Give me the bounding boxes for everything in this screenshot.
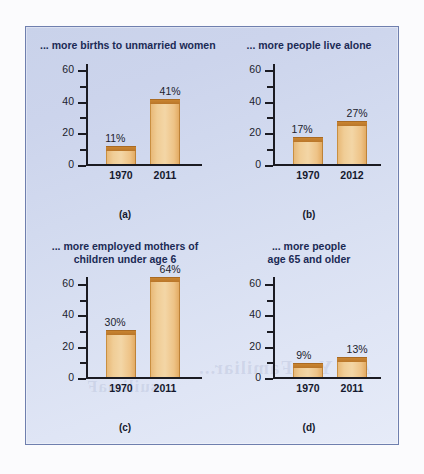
chart-title-a-line1: ... more births to unmarried women — [40, 39, 216, 52]
y-tick-c-0: 0 — [78, 378, 86, 380]
y-tick-b-60: 60 — [265, 70, 273, 72]
x-category-label-d-1: 2011 — [341, 382, 364, 394]
bar-group-c: 30%197064%2011 — [88, 277, 202, 377]
y-tick-label-d-60: 60 — [249, 277, 261, 289]
chart-title-d: ... more people age 65 and older — [221, 240, 397, 265]
bar-a-1970: 11%1970 — [106, 146, 136, 163]
y-tick-c-60: 60 — [78, 284, 86, 286]
y-tick-label-b-20: 20 — [249, 126, 261, 138]
bar-front-face-d-0 — [293, 368, 323, 377]
y-tick-minor-c-30 — [80, 331, 86, 333]
bar-d-1970: 9%1970 — [293, 363, 323, 377]
bar-top-face-a-1 — [150, 99, 180, 104]
y-tick-d-40: 40 — [265, 315, 273, 317]
plot-area-d: 0204060 9%197013%2011 — [235, 265, 387, 405]
x-category-label-a-0: 1970 — [109, 169, 132, 181]
y-tick-label-c-40: 40 — [62, 308, 74, 320]
y-tick-minor-d-10 — [267, 362, 273, 364]
bar-c-1970: 30%1970 — [106, 330, 136, 377]
bar-value-label-c-0: 30% — [105, 316, 126, 328]
x-axis-b — [273, 164, 381, 166]
y-tick-label-c-60: 60 — [62, 277, 74, 289]
chart-title-b-line1: ... more people live alone — [223, 39, 395, 52]
bar-d-2011: 13%2011 — [337, 357, 367, 377]
panel-letter-c: (c) — [32, 422, 218, 433]
bar-front-face-b-0 — [293, 142, 323, 164]
x-category-label-d-0: 1970 — [296, 382, 319, 394]
y-tick-label-a-0: 0 — [68, 158, 74, 170]
chart-panel-c: ... more employed mothers of children un… — [32, 240, 218, 443]
bar-front-face-a-1 — [150, 104, 180, 163]
y-tick-b-0: 0 — [265, 165, 273, 167]
chart-title-d-line1: ... more people — [223, 240, 395, 253]
bar-group-b: 17%197027%2012 — [275, 64, 381, 164]
y-tick-minor-a-50 — [80, 86, 86, 88]
y-tick-minor-c-10 — [80, 362, 86, 364]
y-tick-b-20: 20 — [265, 133, 273, 135]
chart-title-c-line2: children under age 6 — [34, 253, 216, 266]
bar-front-face-a-0 — [106, 151, 136, 163]
x-category-label-b-1: 2012 — [340, 169, 363, 181]
bar-value-label-b-0: 17% — [292, 123, 313, 135]
bar-group-a: 11%197041%2011 — [88, 64, 202, 164]
bar-front-face-c-1 — [150, 282, 180, 377]
y-tick-label-d-40: 40 — [249, 308, 261, 320]
y-tick-d-20: 20 — [265, 347, 273, 349]
bar-value-label-a-1: 41% — [160, 85, 181, 97]
bar-value-label-a-0: 11% — [105, 132, 125, 144]
panel-letter-d: (d) — [221, 422, 397, 433]
bar-top-face-c-1 — [150, 277, 180, 282]
bar-group-d: 9%197013%2011 — [275, 277, 381, 377]
plot-area-c: 0204060 30%197064%2011 — [48, 265, 208, 405]
plot-area-b: 0204060 17%197027%2012 — [235, 52, 387, 192]
figure-panel: Are You Familiar... suilimaF ... more bi… — [25, 26, 399, 445]
y-tick-minor-a-10 — [80, 149, 86, 151]
chart-title-c: ... more employed mothers of children un… — [32, 240, 218, 265]
y-tick-minor-c-50 — [80, 300, 86, 302]
y-tick-label-b-60: 60 — [249, 63, 261, 75]
y-tick-d-0: 0 — [265, 378, 273, 380]
y-tick-a-40: 40 — [78, 102, 86, 104]
y-tick-c-20: 20 — [78, 347, 86, 349]
y-tick-label-c-20: 20 — [62, 340, 74, 352]
chart-panel-a: ... more births to unmarried women 02040… — [32, 39, 218, 242]
y-tick-minor-a-30 — [80, 117, 86, 119]
bar-a-2011: 41%2011 — [150, 99, 180, 163]
y-tick-c-40: 40 — [78, 315, 86, 317]
y-tick-label-d-0: 0 — [255, 371, 261, 383]
y-tick-b-40: 40 — [265, 102, 273, 104]
bar-top-face-b-1 — [337, 121, 367, 126]
bar-front-face-b-1 — [337, 126, 367, 163]
x-axis-a — [86, 164, 202, 166]
bar-top-face-b-0 — [293, 137, 323, 142]
y-tick-minor-b-30 — [267, 117, 273, 119]
chart-title-d-line2: age 65 and older — [223, 253, 395, 266]
bar-top-face-a-0 — [106, 146, 136, 151]
chart-panel-b: ... more people live alone 0204060 17%19… — [221, 39, 397, 242]
bar-value-label-d-0: 9% — [296, 349, 311, 361]
x-axis-c — [86, 377, 202, 379]
bar-value-label-b-1: 27% — [347, 107, 368, 119]
y-tick-minor-d-50 — [267, 300, 273, 302]
bar-value-label-c-1: 64% — [160, 263, 181, 275]
x-category-label-a-1: 2011 — [154, 169, 177, 181]
chart-panel-d: ... more people age 65 and older 0204060… — [221, 240, 397, 443]
x-axis-d — [273, 377, 381, 379]
y-tick-a-60: 60 — [78, 70, 86, 72]
bar-value-label-d-1: 13% — [347, 343, 368, 355]
y-tick-label-d-20: 20 — [249, 340, 261, 352]
bar-top-face-c-0 — [106, 330, 136, 335]
panel-letter-b: (b) — [221, 209, 397, 220]
x-category-label-c-0: 1970 — [109, 382, 132, 394]
x-category-label-b-0: 1970 — [296, 169, 319, 181]
y-tick-a-0: 0 — [78, 165, 86, 167]
bar-top-face-d-0 — [293, 363, 323, 368]
y-tick-minor-b-50 — [267, 86, 273, 88]
plot-area-a: 0204060 11%197041%2011 — [48, 52, 208, 192]
y-tick-label-b-40: 40 — [249, 95, 261, 107]
panel-letter-a: (a) — [32, 209, 218, 220]
chart-title-b: ... more people live alone — [221, 39, 397, 52]
bar-b-2012: 27%2012 — [337, 121, 367, 163]
y-tick-minor-d-30 — [267, 331, 273, 333]
bar-front-face-c-0 — [106, 335, 136, 377]
